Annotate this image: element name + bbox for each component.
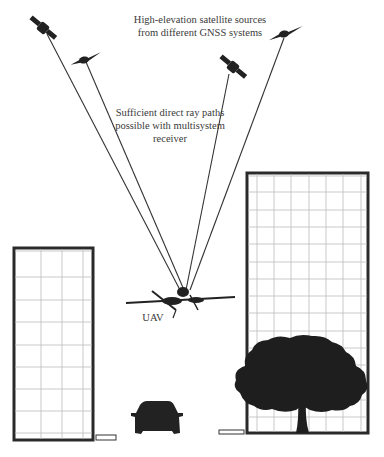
right-marker: [219, 430, 244, 434]
ray-paths-label: Sufficient direct ray paths possible wit…: [100, 106, 240, 145]
title-line-1: High-elevation satellite sources: [100, 13, 300, 26]
left-marker: [96, 435, 116, 440]
left-building: [14, 248, 93, 440]
satellite-icon: [28, 14, 59, 42]
satellite-icon: [218, 53, 249, 81]
ray-label-line-2: possible with multisystem: [100, 119, 240, 132]
uav-label: UAV: [138, 311, 168, 324]
satellite-sources-label: High-elevation satellite sources from di…: [100, 13, 300, 39]
car-icon: [131, 401, 183, 434]
ray-label-line-1: Sufficient direct ray paths: [100, 106, 240, 119]
ray-path-sat-2: [86, 62, 184, 290]
ray-label-line-3: receiver: [100, 132, 240, 145]
satellite-icon: [69, 52, 102, 66]
title-line-2: from different GNSS systems: [100, 26, 300, 39]
gnss-diagram: [0, 0, 384, 457]
